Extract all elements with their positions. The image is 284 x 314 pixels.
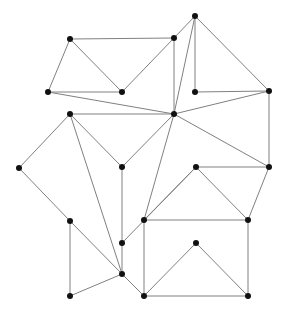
graph-edge [48,39,70,92]
graph-edge [174,91,269,114]
graph-node [67,293,73,299]
graph-edge [70,221,122,274]
graph-edge [174,16,195,114]
graph-edge [248,167,269,220]
graph-node [16,165,22,171]
graph-node [266,164,272,170]
graph-node [193,164,199,170]
graph-edge [196,243,248,296]
edge-layer [19,16,269,296]
graph-node [119,271,125,277]
graph-edge [144,243,196,296]
graph-node [119,164,125,170]
graph-node [171,111,177,117]
graph-edge [19,168,70,221]
graph-node [245,293,251,299]
graph-node [266,88,272,94]
graph-edge [195,91,269,92]
graph-edge [70,114,122,274]
graph-edge [70,274,122,296]
graph-node [141,293,147,299]
graph-edge [70,38,174,39]
graph-edge [48,92,174,114]
graph-node [192,13,198,19]
graph-edge [122,274,144,296]
graph-node [67,36,73,42]
graph-node [67,218,73,224]
graph-edge [70,39,122,92]
graph-node [245,217,251,223]
graph-edge [19,114,70,168]
graph-node [67,111,73,117]
graph-edge [174,16,195,38]
graph-edge [122,38,174,92]
graph-edge [195,16,269,91]
graph-diagram [0,0,284,314]
graph-edge [174,114,269,167]
graph-edge [196,167,248,220]
graph-node [171,35,177,41]
graph-node [45,89,51,95]
graph-node [119,89,125,95]
graph-node [193,240,199,246]
graph-node [119,240,125,246]
graph-edge [70,114,122,167]
graph-node [141,217,147,223]
graph-node [192,89,198,95]
